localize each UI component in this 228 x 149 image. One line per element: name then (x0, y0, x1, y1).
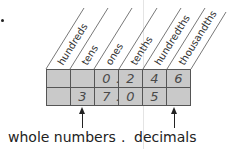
column-headers: hundreds tens ones tenths hundredths tho… (0, 0, 228, 72)
cell-tenths: .2 (119, 70, 143, 88)
cell-ones: 0 (95, 70, 119, 88)
decimal-point-label: . (121, 129, 125, 145)
digit: 0 (126, 89, 134, 104)
cell-thousandths: 6 (167, 70, 191, 88)
cell-tens (71, 70, 95, 88)
cell-hundreds (47, 88, 71, 106)
whole-numbers-label: whole numbers (8, 129, 116, 145)
cell-tenths: .0 (119, 88, 143, 106)
decimal-point: . (116, 89, 120, 104)
header-tenths: tenths (128, 34, 154, 67)
arrow-up-icon (174, 113, 175, 128)
cell-tens: 3 (71, 88, 95, 106)
arrow-up-icon (82, 113, 83, 128)
cell-ones: 7 (95, 88, 119, 106)
grid-row: 3 7 .0 5 (47, 88, 191, 106)
header-ones: ones (103, 41, 125, 67)
cell-hundreds (47, 70, 71, 88)
grid-row: 0 .2 4 6 (47, 70, 191, 88)
cell-thousandths (167, 88, 191, 106)
cell-hundredths: 4 (143, 70, 167, 88)
decimals-label: decimals (134, 129, 197, 145)
decimal-point: . (116, 71, 120, 86)
digit: 2 (126, 71, 134, 86)
place-value-grid: 0 .2 4 6 3 7 .0 5 (46, 69, 191, 106)
cell-hundredths: 5 (143, 88, 167, 106)
